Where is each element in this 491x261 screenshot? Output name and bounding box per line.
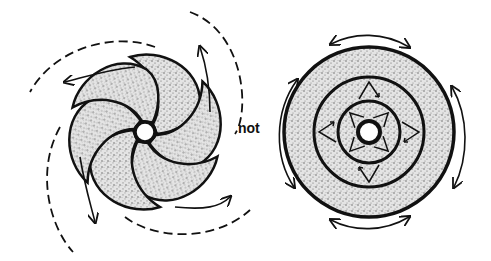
connector-label: not <box>238 120 260 136</box>
spiral-diagram <box>30 12 250 252</box>
concentric-hub <box>358 121 380 143</box>
concentric-diagram <box>279 35 465 228</box>
spiral-hub <box>135 122 155 142</box>
